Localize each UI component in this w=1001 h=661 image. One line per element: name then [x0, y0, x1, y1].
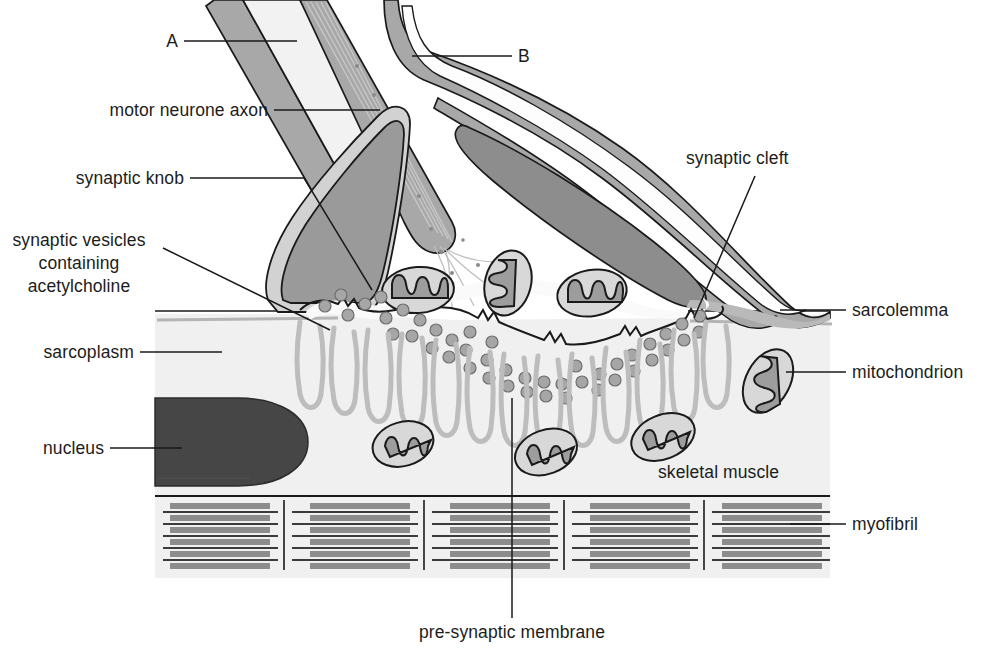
label-motor-neurone-axon: motor neurone axon	[0, 99, 268, 122]
mitochondrion-group-knob	[380, 245, 630, 321]
label-synaptic-knob: synaptic knob	[0, 167, 184, 190]
label-nucleus: nucleus	[0, 437, 104, 460]
label-skeletal-muscle: skeletal muscle	[658, 461, 779, 484]
label-b: B	[518, 45, 530, 68]
mitochondrion	[554, 264, 631, 321]
muscle-nucleus	[155, 398, 308, 486]
myofibril-block	[432, 506, 558, 566]
label-sarcoplasm: sarcoplasm	[0, 341, 134, 364]
label-sarcolemma: sarcolemma	[852, 299, 948, 322]
myofibril-block	[712, 506, 830, 566]
myofibril-block	[292, 506, 418, 566]
myofibril-block	[163, 506, 278, 566]
label-a: A	[138, 30, 178, 53]
label-synaptic-vesicles-line2: containing	[0, 252, 158, 275]
label-myofibril: myofibril	[852, 513, 918, 536]
mitochondrion	[478, 245, 539, 320]
label-synaptic-vesicles-line3: acetylcholine	[0, 275, 158, 298]
label-pre-synaptic-membrane: pre-synaptic membrane	[372, 621, 652, 644]
label-synaptic-cleft: synaptic cleft	[686, 147, 789, 170]
diagram-canvas: A B motor neurone axon synaptic knob syn…	[0, 0, 1001, 661]
label-synaptic-vesicles-line1: synaptic vesicles	[0, 229, 158, 252]
myofibril-block	[572, 506, 698, 566]
label-mitochondrion: mitochondrion	[852, 361, 963, 384]
